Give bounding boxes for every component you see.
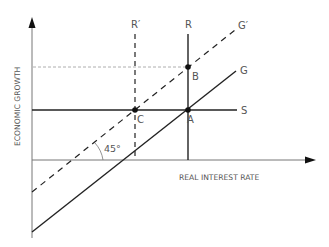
point-b-label: B bbox=[192, 71, 199, 82]
point-a bbox=[185, 107, 191, 113]
x-axis bbox=[32, 157, 316, 164]
interest-rate-growth-diagram: R′ R G′ G S B A C 45° REAL INTEREST RATE… bbox=[0, 0, 329, 247]
r-prime-label: R′ bbox=[131, 19, 141, 30]
x-axis-arrow-icon bbox=[305, 157, 316, 164]
angle-label: 45° bbox=[104, 143, 121, 154]
s-label: S bbox=[241, 105, 247, 116]
g-line bbox=[32, 71, 236, 232]
y-axis-label: ECONOMIC GROWTH bbox=[13, 67, 22, 146]
angle-arc bbox=[95, 143, 103, 160]
g-prime-label: G′ bbox=[238, 20, 249, 31]
point-a-label: A bbox=[187, 114, 194, 125]
y-axis-arrow-icon bbox=[29, 17, 36, 28]
r-label: R bbox=[185, 19, 192, 30]
g-label: G bbox=[240, 65, 248, 76]
x-axis-label: REAL INTEREST RATE bbox=[179, 173, 259, 182]
y-axis bbox=[29, 17, 36, 238]
point-b bbox=[185, 64, 191, 70]
point-c-label: C bbox=[137, 114, 144, 125]
point-c bbox=[132, 107, 138, 113]
